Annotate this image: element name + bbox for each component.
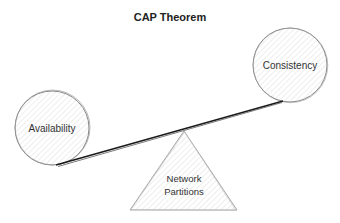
cap-diagram: CAP Theorem Availability Consistency Net… (0, 0, 340, 223)
consistency-node: Consistency (253, 28, 328, 103)
consistency-label: Consistency (263, 60, 317, 71)
diagram-svg: CAP Theorem Availability Consistency Net… (0, 0, 340, 223)
partitions-node: Network Partitions (130, 131, 237, 211)
availability-node: Availability (15, 90, 90, 165)
diagram-title: CAP Theorem (134, 11, 207, 23)
partitions-label-line2: Partitions (164, 186, 204, 197)
partitions-label-line1: Network (167, 173, 202, 184)
availability-label: Availability (28, 123, 75, 134)
